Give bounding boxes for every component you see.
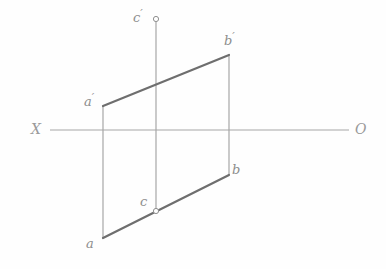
drawing-canvas: c′ b′ a′ b c a X O — [0, 0, 386, 269]
vertex-label-c-prime-mark: ′ — [140, 7, 143, 20]
vertex-label-c-text: c — [140, 194, 147, 209]
vertex-label-a-prime: a′ — [84, 92, 94, 108]
axis-label-x: X — [31, 122, 41, 136]
vertex-label-a-prime-text: a — [84, 94, 92, 109]
vertex-label-b-prime: b′ — [224, 31, 235, 47]
edge-a-b — [103, 175, 229, 238]
projection-diagram — [0, 0, 386, 269]
edge-a-prime-b-prime — [103, 55, 229, 106]
vertex-label-c: c — [140, 195, 147, 208]
vertex-label-a-text: a — [86, 236, 94, 251]
vertex-label-b-text: b — [232, 162, 240, 177]
vertex-label-c-prime: c′ — [133, 8, 143, 24]
c-point-marker — [153, 208, 158, 213]
vertex-label-b-prime-mark: ′ — [232, 30, 235, 43]
vertex-label-a: a — [86, 237, 94, 250]
axis-label-o: O — [355, 122, 366, 136]
vertex-label-a-prime-mark: ′ — [92, 91, 95, 104]
vertex-label-b: b — [232, 163, 240, 176]
c-prime-point-marker — [153, 16, 158, 21]
